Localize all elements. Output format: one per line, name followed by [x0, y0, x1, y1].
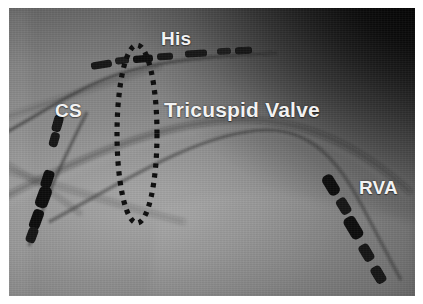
figure-frame: His CS Tricuspid Valve RVA [0, 0, 423, 304]
fluoroscopy-image: His CS Tricuspid Valve RVA [9, 8, 415, 296]
tricuspid-valve-label: Tricuspid Valve [164, 99, 320, 120]
right-ventricular-apex-label: RVA [359, 178, 398, 197]
tricuspid-annulus-ellipse [9, 8, 415, 296]
coronary-sinus-label: CS [55, 101, 82, 120]
annulus-dotted-outline [117, 45, 157, 223]
his-bundle-label: His [161, 29, 191, 48]
